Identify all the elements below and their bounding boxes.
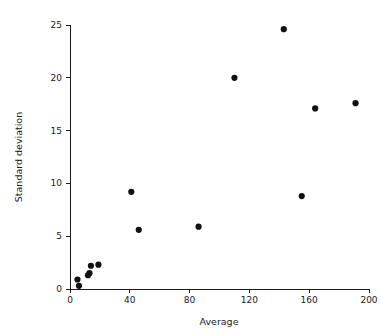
data-points-group xyxy=(74,26,358,289)
data-point xyxy=(312,105,318,111)
x-tick-label: 80 xyxy=(184,295,196,305)
data-point xyxy=(128,189,134,195)
axes-group xyxy=(70,25,369,289)
y-tick-label: 25 xyxy=(51,20,62,30)
data-point xyxy=(74,276,80,282)
y-tick-label: 15 xyxy=(51,126,62,136)
data-point xyxy=(76,283,82,289)
y-tick-label: 0 xyxy=(56,284,62,294)
data-point xyxy=(136,227,142,233)
x-axis-title: Average xyxy=(199,316,238,327)
data-point xyxy=(88,263,94,269)
x-tick-label: 200 xyxy=(360,295,377,305)
data-point xyxy=(281,26,287,32)
y-axis-ticks: 0510152025 xyxy=(51,20,70,294)
data-point xyxy=(195,224,201,230)
y-tick-label: 10 xyxy=(51,178,63,188)
y-tick-label: 20 xyxy=(51,73,63,83)
y-axis-title: Standard deviation xyxy=(13,112,24,202)
data-point xyxy=(86,270,92,276)
data-point xyxy=(95,262,101,268)
data-point xyxy=(352,100,358,106)
x-tick-label: 160 xyxy=(301,295,318,305)
x-tick-label: 120 xyxy=(241,295,258,305)
x-axis-ticks: 04080120160200 xyxy=(67,289,378,305)
plot-canvas: 0510152025 04080120160200 Average Standa… xyxy=(0,0,381,335)
data-point xyxy=(231,75,237,81)
scatter-plot-figure: 0510152025 04080120160200 Average Standa… xyxy=(0,0,381,335)
x-tick-label: 40 xyxy=(124,295,136,305)
y-tick-label: 5 xyxy=(56,231,62,241)
x-tick-label: 0 xyxy=(67,295,73,305)
data-point xyxy=(299,193,305,199)
